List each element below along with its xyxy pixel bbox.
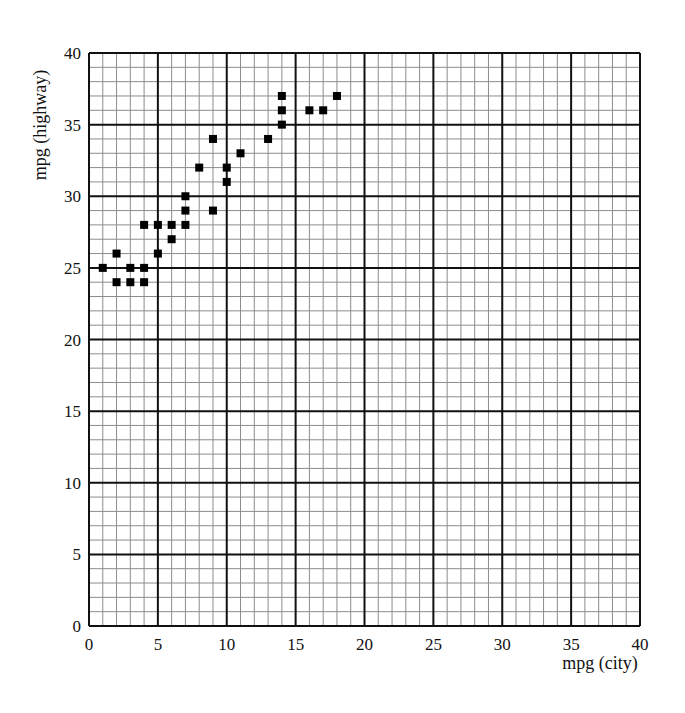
scatter-chart: 0510152025303540 0510152025303540 mpg (c… [0, 0, 685, 713]
x-tick-label: 15 [287, 635, 304, 654]
x-tick-label: 40 [632, 635, 649, 654]
x-tick-label: 20 [356, 635, 373, 654]
y-tick-label: 25 [64, 259, 81, 278]
y-axis-label: mpg (highway) [30, 70, 51, 180]
x-tick-label: 0 [85, 635, 94, 654]
data-point [140, 278, 148, 286]
y-tick-label: 35 [64, 116, 81, 135]
y-tick-label: 10 [64, 474, 81, 493]
data-point [181, 207, 189, 215]
data-point [278, 121, 286, 129]
data-point [181, 192, 189, 200]
y-tick-label: 5 [73, 545, 82, 564]
data-point [333, 92, 341, 100]
data-point [264, 135, 272, 143]
data-point [223, 178, 231, 186]
data-point [140, 221, 148, 229]
data-point [181, 221, 189, 229]
y-tick-label: 30 [64, 187, 81, 206]
y-tick-label: 20 [64, 331, 81, 350]
data-points [99, 92, 341, 286]
data-point [168, 235, 176, 243]
y-tick-label: 15 [64, 402, 81, 421]
x-tick-label: 25 [425, 635, 442, 654]
data-point [154, 221, 162, 229]
data-point [154, 250, 162, 258]
data-point [99, 264, 107, 272]
y-tick-label: 40 [64, 44, 81, 63]
x-tick-label: 35 [563, 635, 580, 654]
data-point [140, 264, 148, 272]
data-point [237, 149, 245, 157]
data-point [223, 164, 231, 172]
data-point [209, 135, 217, 143]
data-point [319, 106, 327, 114]
x-tick-labels: 0510152025303540 [85, 635, 649, 654]
data-point [126, 278, 134, 286]
data-point [209, 207, 217, 215]
x-axis-label: mpg (city) [562, 653, 637, 674]
data-point [126, 264, 134, 272]
x-tick-label: 5 [154, 635, 163, 654]
y-tick-label: 0 [73, 617, 82, 636]
data-point [195, 164, 203, 172]
data-point [113, 250, 121, 258]
x-tick-label: 30 [494, 635, 511, 654]
data-point [168, 221, 176, 229]
data-point [113, 278, 121, 286]
x-tick-label: 10 [218, 635, 235, 654]
y-tick-labels: 0510152025303540 [64, 44, 81, 636]
data-point [278, 106, 286, 114]
data-point [278, 92, 286, 100]
data-point [305, 106, 313, 114]
